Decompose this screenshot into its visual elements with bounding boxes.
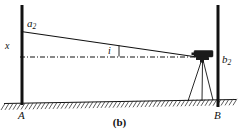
figure-surveying-diagram: a2 x i b2 A B (b) — [0, 0, 239, 133]
label-offset-x: x — [5, 41, 9, 51]
telescope-body — [194, 51, 213, 58]
label-staff-reading-a2: a2 — [27, 18, 36, 30]
tripod-leg-right — [204, 62, 214, 100]
label-angle-i: i — [108, 46, 111, 56]
tripod-leg-left — [188, 62, 201, 101]
figure-caption: (b) — [0, 116, 239, 128]
level-instrument — [188, 51, 213, 102]
tripod-leg-center — [202, 62, 203, 101]
telescope-eyepiece — [192, 53, 195, 56]
label-staff-reading-b2: b2 — [222, 54, 231, 66]
instrument-base-plate — [196, 57, 209, 60]
